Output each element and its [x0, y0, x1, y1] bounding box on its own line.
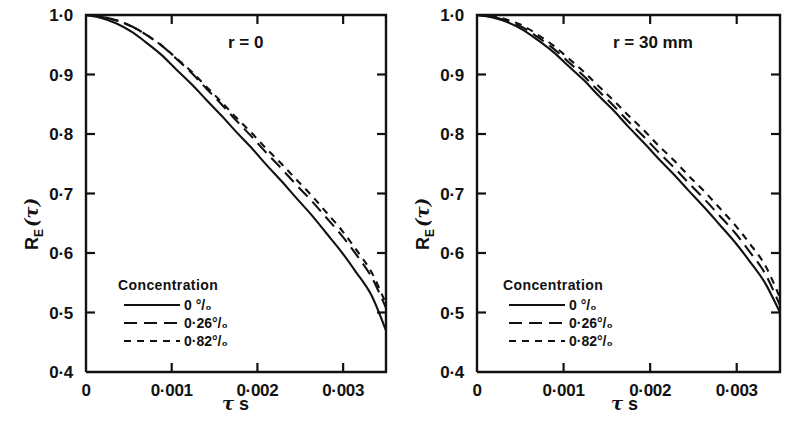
y-axis-title-subscript: E	[32, 229, 46, 237]
legend-title: Concentration	[118, 277, 218, 293]
y-axis-title: RE(τ)	[21, 198, 46, 250]
y-axis-tick-label: 1·0	[49, 6, 73, 25]
legend-item-label-0: 0 °/₀	[569, 297, 596, 313]
y-axis-tick-label: 0·6	[440, 244, 464, 263]
x-axis-tick-label: 0·001	[543, 381, 585, 400]
panel-title: r = 30 mm	[613, 33, 693, 52]
x-axis-title-tau: τ	[222, 393, 235, 414]
x-axis-tick-label: 0·003	[716, 381, 758, 400]
legend-item-label-1: 0·26°/₀	[569, 315, 613, 331]
y-axis-tick-label: 0·4	[440, 363, 465, 382]
chart-panel-right: 1·00·90·80·70·60·50·400·0010·0020·003r =…	[395, 0, 790, 437]
y-axis-tick-label: 0·9	[49, 66, 73, 85]
legend-item-label-2: 0·82°/₀	[184, 333, 228, 349]
legend-item-label-2: 0·82°/₀	[569, 333, 613, 349]
y-axis-title-r: R	[22, 237, 42, 250]
y-axis-title-tau: (τ)	[21, 198, 42, 227]
figure-container: 1·00·90·80·70·60·50·400·0010·0020·003r =…	[0, 0, 790, 437]
data-curve-0	[477, 15, 780, 313]
y-axis-tick-label: 1·0	[440, 6, 464, 25]
y-axis-tick-label: 0·4	[49, 363, 74, 382]
legend: Concentration0 °/₀0·26°/₀0·82°/₀	[118, 277, 228, 349]
y-axis-tick-label: 0·8	[440, 125, 464, 144]
x-axis-title-tau: τ	[611, 393, 624, 414]
legend: Concentration0 °/₀0·26°/₀0·82°/₀	[503, 277, 613, 349]
panel-title: r = 0	[228, 33, 263, 52]
y-axis-tick-label: 0·5	[440, 304, 464, 323]
legend-title: Concentration	[503, 277, 603, 293]
y-axis-tick-label: 0·7	[440, 185, 464, 204]
x-axis-tick-label: 0	[81, 381, 90, 400]
y-axis-tick-label: 0·7	[49, 185, 73, 204]
y-axis-title-tau: (τ)	[412, 198, 433, 227]
data-curve-1	[477, 15, 780, 305]
data-curve-2	[86, 15, 386, 304]
data-curve-1	[86, 15, 386, 308]
x-axis-tick-label: 0·003	[322, 381, 364, 400]
plot-frame	[86, 15, 386, 372]
y-axis-tick-label: 0·8	[49, 125, 73, 144]
x-axis-title-unit: s	[239, 394, 249, 414]
y-axis-title-subscript: E	[423, 229, 437, 237]
chart-panel-left: 1·00·90·80·70·60·50·400·0010·0020·003r =…	[0, 0, 395, 437]
y-axis-tick-label: 0·9	[440, 66, 464, 85]
data-curve-2	[477, 15, 780, 298]
y-axis-title-r: R	[413, 237, 433, 250]
legend-item-label-1: 0·26°/₀	[184, 315, 228, 331]
plot-frame	[477, 15, 780, 372]
y-axis-tick-label: 0·5	[49, 304, 73, 323]
y-axis-tick-label: 0·6	[49, 244, 73, 263]
y-axis-title: RE(τ)	[412, 198, 437, 250]
x-axis-title-unit: s	[628, 394, 638, 414]
legend-item-label-0: 0 °/₀	[184, 297, 211, 313]
x-axis-tick-label: 0	[472, 381, 481, 400]
x-axis-tick-label: 0·001	[151, 381, 193, 400]
